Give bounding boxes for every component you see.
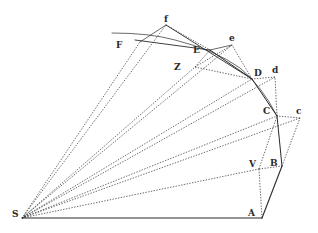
- ray-Se: [22, 45, 232, 218]
- label-d: d: [272, 66, 278, 75]
- label-F: F: [116, 41, 122, 50]
- geometric-figure: [0, 0, 318, 233]
- label-D: D: [254, 69, 262, 78]
- line-Cd: [275, 77, 277, 116]
- line-VA: [259, 169, 262, 218]
- ray-Sd: [22, 77, 275, 218]
- ray-SC: [22, 116, 277, 218]
- ray-Sc: [22, 118, 300, 218]
- ray-Sf: [22, 25, 166, 218]
- label-f: f: [164, 15, 168, 24]
- label-B: B: [270, 159, 278, 168]
- label-S: S: [12, 210, 19, 219]
- line-eE: [210, 45, 232, 50]
- line-Bc: [282, 118, 300, 166]
- label-E: E: [193, 46, 200, 55]
- ray-SD: [22, 79, 252, 218]
- line-AB: [262, 166, 282, 218]
- label-e: e: [229, 34, 235, 43]
- label-A: A: [248, 209, 255, 218]
- label-c: c: [296, 107, 301, 116]
- label-C: C: [263, 107, 270, 116]
- line-fF: [140, 25, 166, 42]
- label-Z: Z: [174, 63, 181, 72]
- line-cC: [277, 116, 300, 118]
- ray-SV: [22, 169, 259, 218]
- ray-SF: [22, 42, 140, 218]
- label-V: V: [249, 160, 256, 169]
- ray-SZ: [22, 67, 195, 218]
- line-De: [232, 45, 252, 79]
